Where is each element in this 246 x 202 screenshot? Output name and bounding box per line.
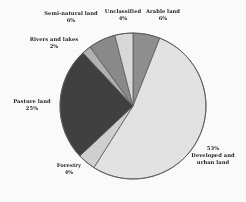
slice-label-percent: 53% bbox=[182, 145, 244, 152]
slice-label-forestry: Forestry 4% bbox=[46, 162, 92, 176]
pie-chart: Semi-natural land 6% Unclassified 4% Ara… bbox=[0, 0, 246, 202]
slice-label-text: Forestry bbox=[57, 162, 81, 168]
slice-label-percent: 4% bbox=[46, 169, 92, 176]
slice-label-text: Pasture land bbox=[13, 98, 50, 104]
slice-label-text: Unclassified bbox=[105, 8, 141, 14]
slice-label-text: Arable land bbox=[146, 8, 180, 14]
slice-label-text: Semi-natural land bbox=[44, 10, 97, 16]
slice-label-text-line1: Developed and bbox=[191, 152, 234, 158]
slice-label-pasture-land: Pasture land 25% bbox=[3, 98, 61, 112]
slice-label-rivers-and-lakes: Rivers and lakes 2% bbox=[19, 36, 89, 50]
slice-label-percent: 25% bbox=[3, 105, 61, 112]
slice-label-text: Rivers and lakes bbox=[30, 36, 79, 42]
slice-label-developed-and-urban-land: 53% Developed and urban land bbox=[182, 145, 244, 166]
slice-label-arable-land: Arable land 6% bbox=[139, 8, 187, 22]
slice-label-text-line2: urban land bbox=[197, 159, 229, 165]
slice-label-percent: 2% bbox=[19, 43, 89, 50]
slice-label-semi-natural-land: Semi-natural land 6% bbox=[36, 10, 106, 24]
slice-label-percent: 6% bbox=[139, 15, 187, 22]
slice-label-percent: 6% bbox=[36, 17, 106, 24]
